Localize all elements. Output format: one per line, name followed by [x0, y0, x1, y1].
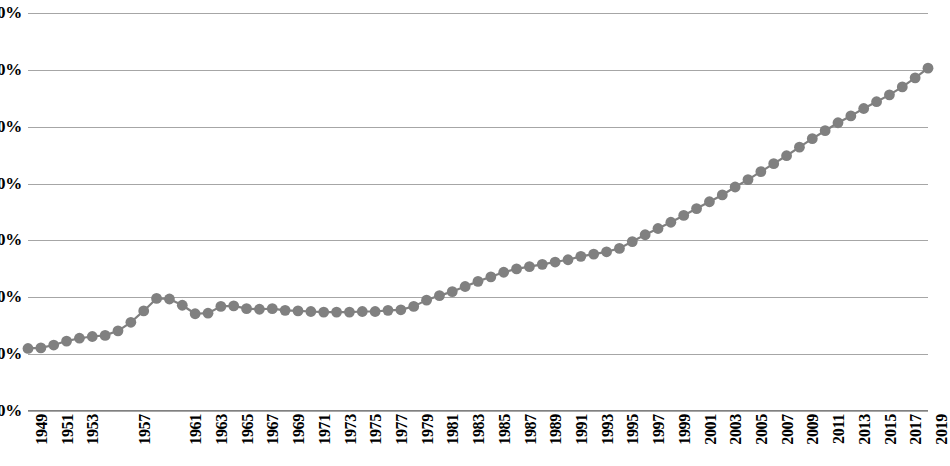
- y-tick-label: 70%: [0, 3, 22, 23]
- x-axis: 1949195119531957196119631965196719691971…: [28, 414, 928, 466]
- gridline-0: [28, 411, 928, 412]
- data-point: [588, 249, 599, 260]
- data-point: [781, 150, 792, 161]
- data-point: [395, 304, 406, 315]
- y-tick-label: 0%: [0, 401, 22, 421]
- plot-area: [28, 13, 928, 411]
- x-tick-label: 1985: [497, 414, 513, 445]
- x-tick-label: 1991: [574, 414, 590, 445]
- data-point: [717, 190, 728, 201]
- data-point: [215, 301, 226, 312]
- data-point: [151, 293, 162, 304]
- x-tick-label: 1977: [394, 414, 410, 445]
- data-point: [23, 343, 34, 354]
- y-tick-label: 40%: [0, 174, 22, 194]
- x-tick-label: 1957: [137, 414, 153, 445]
- data-point: [344, 307, 355, 318]
- data-point: [421, 295, 432, 306]
- x-tick-label: 2003: [728, 414, 744, 445]
- data-point: [434, 290, 445, 301]
- data-point: [627, 236, 638, 247]
- data-point: [203, 308, 214, 319]
- data-point: [447, 286, 458, 297]
- data-point: [820, 125, 831, 136]
- data-point: [614, 243, 625, 254]
- data-point: [370, 306, 381, 317]
- data-point: [640, 229, 651, 240]
- data-point: [833, 117, 844, 128]
- data-point: [138, 306, 149, 317]
- data-point: [691, 203, 702, 214]
- x-tick-label: 1949: [34, 414, 50, 445]
- data-point: [460, 281, 471, 292]
- x-tick-label: 2019: [934, 414, 950, 445]
- data-point: [498, 267, 509, 278]
- x-tick-label: 1999: [677, 414, 693, 445]
- data-point: [923, 63, 934, 74]
- data-point: [884, 89, 895, 100]
- x-tick-label: 1983: [471, 414, 487, 445]
- data-point: [730, 182, 741, 193]
- data-point: [254, 304, 265, 315]
- data-point: [665, 217, 676, 228]
- data-point: [35, 342, 46, 353]
- data-point: [858, 103, 869, 114]
- data-point: [61, 336, 72, 347]
- x-tick-label: 1971: [317, 414, 333, 445]
- data-point: [241, 303, 252, 314]
- data-point: [563, 254, 574, 265]
- x-tick-label: 2015: [883, 414, 899, 445]
- y-tick-label: 10%: [0, 344, 22, 364]
- data-point: [678, 210, 689, 221]
- x-tick-label: 1997: [651, 414, 667, 445]
- data-point: [113, 325, 124, 336]
- data-point: [910, 72, 921, 83]
- x-tick-label: 2007: [780, 414, 796, 445]
- data-point: [293, 306, 304, 317]
- data-point: [537, 259, 548, 270]
- y-tick-label: 20%: [0, 287, 22, 307]
- data-point: [524, 261, 535, 272]
- data-point: [318, 307, 329, 318]
- series-line: [28, 68, 928, 348]
- data-point: [125, 317, 136, 328]
- data-point: [331, 307, 342, 318]
- data-point: [601, 246, 612, 257]
- x-tick-label: 1953: [85, 414, 101, 445]
- data-point: [845, 111, 856, 122]
- data-point: [653, 223, 664, 234]
- x-tick-label: 1951: [60, 414, 76, 445]
- x-tick-label: 1981: [445, 414, 461, 445]
- data-point: [357, 306, 368, 317]
- data-point: [755, 166, 766, 177]
- data-point: [485, 271, 496, 282]
- data-point: [807, 133, 818, 144]
- data-point: [768, 158, 779, 169]
- data-point: [48, 340, 59, 351]
- y-tick-label: 60%: [0, 60, 22, 80]
- x-tick-label: 2005: [754, 414, 770, 445]
- data-point: [100, 330, 111, 341]
- x-tick-label: 2009: [805, 414, 821, 445]
- x-tick-label: 1995: [625, 414, 641, 445]
- x-tick-label: 1989: [548, 414, 564, 445]
- y-tick-label: 50%: [0, 117, 22, 137]
- data-point: [164, 294, 175, 305]
- x-tick-label: 1969: [291, 414, 307, 445]
- data-point: [280, 305, 291, 316]
- data-point: [383, 305, 394, 316]
- data-point: [575, 251, 586, 262]
- x-tick-label: 1965: [240, 414, 256, 445]
- data-point: [87, 331, 98, 342]
- data-point: [473, 276, 484, 287]
- data-series: [28, 13, 928, 411]
- x-tick-label: 2001: [703, 414, 719, 445]
- data-point: [408, 301, 419, 312]
- data-point: [871, 96, 882, 107]
- x-tick-label: 1961: [188, 414, 204, 445]
- data-point: [550, 257, 561, 268]
- data-point: [177, 300, 188, 311]
- data-point: [305, 306, 316, 317]
- data-point: [190, 308, 201, 319]
- x-tick-label: 1973: [343, 414, 359, 445]
